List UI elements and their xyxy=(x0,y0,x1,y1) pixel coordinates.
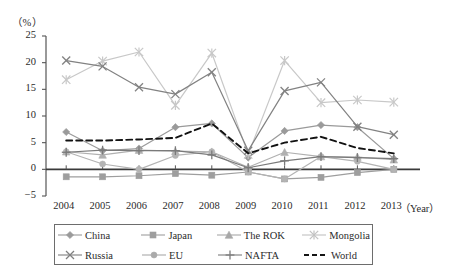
square-marker xyxy=(209,172,215,178)
legend-item-label: The ROK xyxy=(244,230,285,241)
diamond-marker xyxy=(66,231,73,238)
x-axis-title: （Year） xyxy=(400,200,439,215)
x-axis-tick-label: 2004 xyxy=(53,200,74,211)
plus-marker xyxy=(98,146,107,155)
square-marker xyxy=(100,174,106,180)
y-axis-tick-label: 25 xyxy=(14,29,36,40)
asterisk-marker xyxy=(208,48,216,57)
plus-marker xyxy=(62,148,71,157)
y-axis-tick-label: 0 xyxy=(14,162,36,173)
chart-legend: ChinaJapanThe ROKMongolia RussiaEUNAFTAW… xyxy=(54,224,373,265)
x-axis-tick-label: 2009 xyxy=(235,200,256,211)
legend-item-label: China xyxy=(85,230,110,241)
cross-x-marker xyxy=(57,249,83,261)
legend-item-label: EU xyxy=(169,250,183,261)
circle-marker xyxy=(282,176,288,182)
asterisk-marker xyxy=(280,56,288,65)
cross-x-marker xyxy=(317,78,325,86)
asterisk-marker xyxy=(135,47,143,56)
series-mongolia xyxy=(62,47,398,159)
plus-marker xyxy=(135,146,144,155)
legend-item-mongolia[interactable]: Mongolia xyxy=(301,229,370,241)
plus-marker xyxy=(217,249,243,261)
legend-item-the-rok[interactable]: The ROK xyxy=(216,229,301,241)
cross-x-marker xyxy=(281,87,289,95)
diamond-marker xyxy=(63,128,70,135)
square-marker xyxy=(140,229,166,241)
circle-marker xyxy=(141,249,167,261)
legend-item-label: NAFTA xyxy=(245,250,279,261)
y-axis-tick-label: 5 xyxy=(14,136,36,147)
circle-marker xyxy=(151,252,157,258)
x-axis-tick-label: 2008 xyxy=(199,200,220,211)
square-marker xyxy=(172,171,178,177)
legend-item-world[interactable]: World xyxy=(303,249,357,261)
cross-x-marker xyxy=(208,68,216,76)
plus-marker xyxy=(226,251,235,260)
x-axis-tick-label: 2010 xyxy=(272,200,293,211)
circle-marker xyxy=(391,166,397,172)
legend-item-china[interactable]: China xyxy=(57,229,140,241)
y-axis-tick-label: 20 xyxy=(14,56,36,67)
legend-item-label: World xyxy=(331,250,357,261)
asterisk-marker xyxy=(171,101,179,110)
legend-item-label: Russia xyxy=(85,250,113,261)
legend-item-russia[interactable]: Russia xyxy=(57,249,141,261)
circle-marker xyxy=(100,161,106,167)
y-axis-tick-label: 15 xyxy=(14,82,36,93)
chart-container: （%） 2520151050−5 20042005200620072008200… xyxy=(0,0,449,272)
triangle-marker xyxy=(216,229,242,241)
legend-item-japan[interactable]: Japan xyxy=(140,229,215,241)
diamond-marker xyxy=(172,124,179,131)
x-axis-tick-label: 2005 xyxy=(90,200,111,211)
legend-item-eu[interactable]: EU xyxy=(141,249,217,261)
square-marker xyxy=(136,173,142,179)
plus-marker xyxy=(280,156,289,165)
x-axis-tick-label: 2007 xyxy=(162,200,183,211)
square-marker xyxy=(63,174,69,180)
series-world xyxy=(66,123,394,153)
x-axis-tick-label: 2006 xyxy=(126,200,147,211)
dashed-line xyxy=(303,249,329,261)
asterisk-marker xyxy=(62,75,70,84)
diamond-marker xyxy=(317,121,324,128)
legend-item-label: Japan xyxy=(168,230,192,241)
legend-row: RussiaEUNAFTAWorld xyxy=(55,245,372,265)
cross-x-marker xyxy=(390,131,398,139)
y-axis-tick-label: 10 xyxy=(14,109,36,120)
x-axis-tick-label: 2011 xyxy=(308,200,329,211)
circle-marker xyxy=(136,166,142,172)
square-marker xyxy=(354,170,360,176)
legend-item-label: Mongolia xyxy=(329,230,370,241)
x-axis-tick-label: 2013 xyxy=(381,200,402,211)
series-china xyxy=(63,120,398,162)
y-axis-tick-label: −5 xyxy=(14,189,36,200)
legend-item-nafta[interactable]: NAFTA xyxy=(217,249,303,261)
x-axis-tick-label: 2012 xyxy=(344,200,365,211)
square-marker xyxy=(150,232,156,238)
asterisk-marker xyxy=(301,229,327,241)
diamond-marker xyxy=(57,229,83,241)
legend-row: ChinaJapanThe ROKMongolia xyxy=(55,225,372,245)
square-marker xyxy=(318,174,324,180)
